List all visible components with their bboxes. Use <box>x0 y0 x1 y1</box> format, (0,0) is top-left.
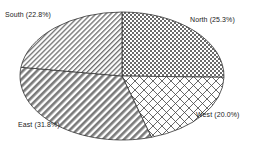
pie-slice-south <box>21 12 122 76</box>
slice-label-west: West (20.0%) <box>196 111 239 118</box>
slice-label-east: East (31.8%) <box>18 121 60 128</box>
slice-label-north: North (25.3%) <box>190 16 235 23</box>
slice-label-south: South (22.8%) <box>5 11 51 18</box>
